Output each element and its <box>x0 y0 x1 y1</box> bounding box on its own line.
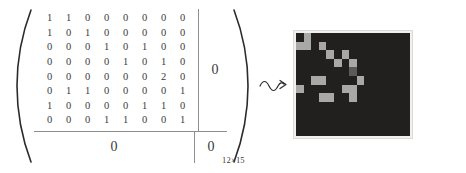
matrix-cell: 0 <box>78 11 97 26</box>
matrix-cell: 0 <box>173 70 192 85</box>
pixel-cell <box>304 76 312 85</box>
pixel-cell <box>380 76 388 85</box>
matrix-cell: 0 <box>116 11 135 26</box>
pixel-cell <box>380 110 388 119</box>
matrix-row: 01100001 <box>40 84 192 99</box>
pixel-cell <box>395 33 403 42</box>
matrix-row: 10000110 <box>40 99 192 114</box>
pixel-cell <box>311 67 319 76</box>
pixel-cell <box>311 42 319 51</box>
pixel-cell <box>387 119 395 128</box>
pixel-cell <box>380 93 388 102</box>
pixel-cell <box>334 128 342 137</box>
pixel-cell <box>326 33 334 42</box>
pixel-cell <box>326 93 334 102</box>
pixel-cell <box>380 59 388 68</box>
block-matrix: 1100000010100000000101000000101000000020… <box>14 6 251 166</box>
pixel-cell <box>387 67 395 76</box>
pixel-cell <box>395 59 403 68</box>
pixel-cell <box>380 67 388 76</box>
pixel-cell <box>296 33 304 42</box>
pixel-cell <box>372 50 380 59</box>
pixel-cell <box>364 67 372 76</box>
matrix-cell: 0 <box>59 26 78 41</box>
pixel-cell <box>349 42 357 51</box>
pixel-cell <box>372 42 380 51</box>
pixel-cell <box>319 93 327 102</box>
matrix-cell: 0 <box>173 26 192 41</box>
matrix-cell: 0 <box>40 113 59 128</box>
pixel-cell <box>387 42 395 51</box>
pixel-cell <box>319 119 327 128</box>
pixel-cell <box>402 93 410 102</box>
pixel-cell <box>387 59 395 68</box>
pixel-cell <box>334 119 342 128</box>
pixel-cell <box>296 76 304 85</box>
matrix-row: 00001010 <box>40 55 192 70</box>
pixel-cell <box>342 110 350 119</box>
pixel-cell <box>364 50 372 59</box>
matrix-cell: 1 <box>40 26 59 41</box>
pixel-cell <box>387 110 395 119</box>
matrix-cell: 0 <box>97 84 116 99</box>
matrix-block-C: 0 <box>34 132 194 163</box>
pixel-image-frame <box>294 31 412 138</box>
matrix-cell: 0 <box>40 84 59 99</box>
matrix-cell: 1 <box>59 11 78 26</box>
pixel-cell <box>387 33 395 42</box>
pixel-cell <box>326 119 334 128</box>
pixel-cell <box>402 128 410 137</box>
pixel-cell <box>395 102 403 111</box>
pixel-cell <box>395 42 403 51</box>
matrix-cell: 0 <box>154 40 173 55</box>
pixel-cell <box>334 59 342 68</box>
matrix-cell: 0 <box>78 113 97 128</box>
pixel-cell <box>319 76 327 85</box>
pixel-cell <box>296 67 304 76</box>
pixel-cell <box>372 67 380 76</box>
pixel-cell <box>357 67 365 76</box>
matrix-cell: 0 <box>116 99 135 114</box>
pixel-cell <box>334 33 342 42</box>
pixel-cell <box>326 102 334 111</box>
matrix-cell: 1 <box>135 99 154 114</box>
pixel-cell <box>357 50 365 59</box>
pixel-cell <box>372 59 380 68</box>
pixel-cell <box>357 110 365 119</box>
matrix-cell: 0 <box>135 84 154 99</box>
matrix-cell: 0 <box>59 113 78 128</box>
matrix-cell: 0 <box>97 26 116 41</box>
pixel-cell <box>326 128 334 137</box>
pixel-cell <box>311 102 319 111</box>
pixel-cell <box>349 67 357 76</box>
squiggly-arrow-right-icon <box>258 76 292 94</box>
pixel-cell <box>395 110 403 119</box>
matrix-cell: 0 <box>173 99 192 114</box>
pixel-cell <box>380 85 388 94</box>
matrix-block-A: 1100000010100000000101000000101000000020… <box>34 9 198 131</box>
pixel-cell <box>342 85 350 94</box>
pixel-cell <box>296 50 304 59</box>
matrix-cell: 1 <box>135 40 154 55</box>
matrix-to-pixel-figure: 1100000010100000000101000000101000000020… <box>0 0 466 173</box>
matrix-cell: 1 <box>116 55 135 70</box>
pixel-cell <box>326 59 334 68</box>
pixel-cell <box>326 50 334 59</box>
pixel-cell <box>349 128 357 137</box>
matrix-cell: 1 <box>154 99 173 114</box>
matrix-cell: 0 <box>78 40 97 55</box>
pixel-cell <box>364 76 372 85</box>
pixel-cell <box>334 67 342 76</box>
pixel-cell <box>380 42 388 51</box>
pixel-cell <box>326 42 334 51</box>
pixel-cell <box>402 85 410 94</box>
pixel-image-grid <box>296 33 410 136</box>
matrix-dimension-subscript: 12×15 <box>222 155 245 165</box>
pixel-cell <box>395 76 403 85</box>
pixel-cell <box>372 128 380 137</box>
pixel-cell <box>304 102 312 111</box>
pixel-cell <box>357 119 365 128</box>
matrix-cell: 0 <box>40 55 59 70</box>
matrix-cell: 1 <box>97 40 116 55</box>
matrix-number-grid: 1100000010100000000101000000101000000020… <box>40 11 192 128</box>
